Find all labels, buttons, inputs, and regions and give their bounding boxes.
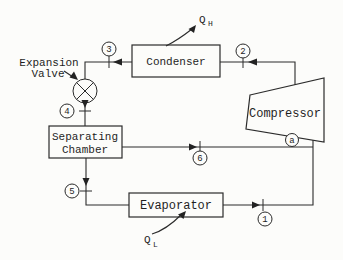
compressor-label: Compressor — [249, 107, 321, 121]
refrigeration-cycle-diagram: Condenser Compressor Separating Chamber … — [0, 0, 343, 260]
flow-arrow-chamber-vapor-line — [189, 144, 197, 151]
state-point-a-label: a — [289, 136, 295, 146]
diagram-canvas: Condenser Compressor Separating Chamber … — [0, 0, 343, 260]
heat-out-arrowhead — [189, 25, 197, 33]
pipe-compressor-to-condenser — [220, 62, 295, 85]
state-point-3-label: 3 — [106, 45, 111, 55]
state-point-1-label: 1 — [262, 215, 267, 225]
flow-arrow-evaporator-outlet — [252, 202, 260, 209]
state-point-3: 3 — [102, 42, 116, 56]
state-point-5-label: 5 — [69, 187, 74, 197]
separating-chamber-label-line1: Separating — [52, 131, 118, 143]
state-point-4-label: 4 — [64, 107, 69, 117]
flow-arrow-valve-outlet — [82, 100, 89, 108]
heat-out-symbol: Q — [199, 14, 206, 26]
state-point-2-label: 2 — [240, 47, 245, 57]
heat-out-subscript: H — [208, 19, 213, 28]
flow-arrow-into-condenser — [248, 59, 257, 66]
pipe-evaporator-to-compressor — [223, 139, 313, 205]
expansion-valve-symbol — [73, 79, 97, 103]
evaporator-label: Evaporator — [140, 199, 212, 213]
state-point-6: 6 — [193, 151, 207, 165]
heat-in-symbol: Q — [144, 234, 151, 246]
state-point-1: 1 — [258, 212, 272, 226]
state-point-2: 2 — [236, 44, 250, 58]
flow-arrow-chamber-liquid-outlet — [83, 178, 90, 186]
state-point-a: a — [286, 134, 299, 147]
state-point-4: 4 — [60, 104, 74, 118]
state-point-5: 5 — [65, 184, 79, 198]
condenser-label: Condenser — [146, 56, 205, 68]
heat-out-arrow-curve — [166, 29, 192, 46]
pipe-chamber-to-evaporator — [86, 158, 129, 205]
separating-chamber-label-line2: Chamber — [62, 144, 108, 156]
state-point-6-label: 6 — [197, 154, 202, 164]
flow-arrow-into-valve — [113, 59, 122, 66]
expansion-valve-label-line2: Valve — [31, 68, 64, 80]
heat-in-subscript: L — [153, 240, 158, 249]
